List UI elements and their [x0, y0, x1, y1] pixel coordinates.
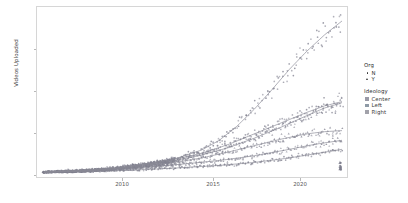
legend-item-ideology-right[interactable]: Right: [364, 109, 408, 115]
legend-title-org: Org: [364, 62, 408, 68]
scatter-points-layer: [42, 14, 344, 174]
square-swatch-icon-left: [364, 102, 371, 108]
trend-lines-layer: [44, 21, 342, 172]
chart-figure: Videos Uploaded 6000 4000 2000 0 2010 20…: [0, 0, 408, 203]
square-swatch-icon-center: [364, 96, 371, 102]
x-tick-label-2015: 2015: [193, 182, 233, 187]
legend-label-org-n: N: [372, 70, 376, 76]
legend-item-ideology-center[interactable]: Center: [364, 96, 408, 102]
plot-panel: [36, 6, 348, 178]
scatter-plot-canvas: [37, 7, 349, 179]
legend-item-org-y[interactable]: Y: [364, 76, 408, 82]
y-axis-title: Videos Uploaded: [13, 13, 19, 113]
legend-title-ideology: Ideology: [364, 88, 408, 94]
legend-label-ideology-center: Center: [372, 96, 391, 102]
legend-item-ideology-left[interactable]: Left: [364, 102, 408, 108]
x-tick-label-2010: 2010: [102, 182, 142, 187]
legend-group-ideology: Ideology Center Left Right: [364, 88, 408, 115]
legend-label-ideology-left: Left: [372, 102, 383, 108]
legend: Org N Y Ideology Center Left Right: [364, 62, 408, 121]
legend-item-org-n[interactable]: N: [364, 70, 408, 76]
legend-label-org-y: Y: [372, 76, 375, 82]
legend-group-org: Org N Y: [364, 62, 408, 82]
square-swatch-icon-right: [364, 109, 371, 115]
triangle-marker-icon: [364, 76, 371, 82]
circle-marker-icon: [364, 70, 371, 76]
x-tick-label-2020: 2020: [280, 182, 320, 187]
legend-label-ideology-right: Right: [372, 109, 387, 115]
